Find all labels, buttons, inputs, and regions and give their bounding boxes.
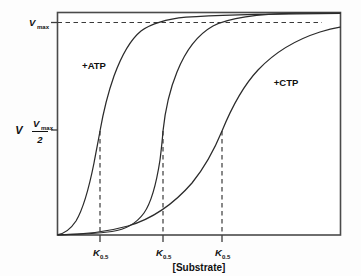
y-tick-label-vmax-half-sub: max (41, 125, 54, 131)
y-tick-label-vmax-base: V (29, 17, 36, 28)
y-tick-label-vmax-half-denominator: 2 (36, 134, 43, 145)
x-axis-label: [Substrate] (173, 262, 226, 273)
chart-svg: V V max V max 2 K 0.5 K 0.5 K 0.5 [Su (0, 0, 361, 276)
x-tick-label-k05-atp: K 0.5 (93, 247, 109, 260)
x-tick-label-k05-none: K 0.5 (156, 247, 172, 260)
x-tick-label-k05-ctp-sub: 0.5 (222, 254, 231, 260)
y-tick-label-vmax-half-base: V (33, 118, 40, 129)
y-tick-label-vmax-half: V max 2 (32, 118, 54, 145)
series-label-plus-ctp: +CTP (274, 77, 299, 88)
y-axis-label: V (15, 124, 24, 136)
enzyme-kinetics-figure: V V max V max 2 K 0.5 K 0.5 K 0.5 [Su (0, 0, 361, 276)
series-label-plus-atp: +ATP (82, 60, 107, 71)
y-tick-label-vmax-sub: max (37, 24, 50, 30)
x-tick-label-k05-ctp: K 0.5 (215, 247, 231, 260)
y-tick-label-vmax: V max (29, 17, 50, 30)
plot-frame (58, 13, 341, 236)
x-tick-label-k05-none-sub: 0.5 (163, 254, 172, 260)
x-tick-label-k05-atp-sub: 0.5 (100, 254, 109, 260)
